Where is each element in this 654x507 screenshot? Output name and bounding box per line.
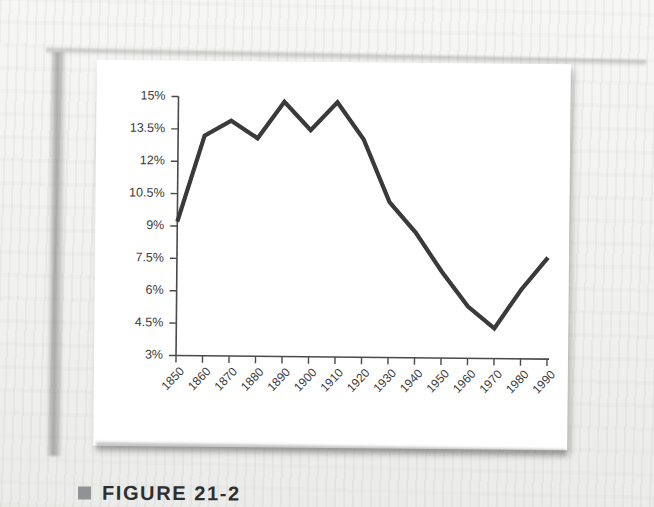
scanned-page-background: 15%13.5%12%10.5%9%7.5%6%4.5%3% 185018601… [0,0,654,507]
y-tick-label: 3% [145,348,163,362]
x-tick-label: 1920 [344,366,373,395]
x-tick-label: 1890 [264,365,293,394]
y-tick-label: 9% [146,218,164,232]
y-axis: 15%13.5%12%10.5%9%7.5%6%4.5%3% [128,88,179,361]
data-series-line [176,101,549,329]
y-tick-label: 12% [140,153,165,167]
y-tick-label: 7.5% [135,250,164,264]
y-tick-label: 15% [140,88,165,102]
x-tick-label: 1950 [423,366,452,395]
y-tick-label: 13.5% [130,121,166,135]
x-tick-label: 1900 [291,365,320,394]
x-tick-label: 1850 [159,364,188,393]
x-tick-label: 1990 [529,367,558,396]
chart-canvas: 15%13.5%12%10.5%9%7.5%6%4.5%3% 185018601… [93,60,571,451]
x-axis: 1850186018701880189019001910192019301940… [158,355,558,396]
x-tick-label: 1970 [476,367,505,396]
line-chart: 15%13.5%12%10.5%9%7.5%6%4.5%3% 185018601… [93,60,571,451]
square-marker-icon [78,487,91,500]
y-tick-label: 10.5% [129,185,165,199]
x-tick-label: 1980 [503,367,532,396]
x-tick-label: 1910 [317,365,346,394]
x-tick-label: 1940 [397,366,426,395]
x-tick-label: 1860 [185,364,214,393]
x-tick-label: 1870 [212,364,241,393]
x-tick-label: 1960 [450,367,479,396]
x-tick-label: 1930 [370,366,399,395]
y-tick-label: 4.5% [135,315,164,329]
y-tick-label: 6% [146,283,164,297]
figure-caption-text: FIGURE 21-2 [102,482,241,506]
figure-caption: FIGURE 21-2 [78,482,241,506]
x-tick-label: 1880 [238,365,267,394]
